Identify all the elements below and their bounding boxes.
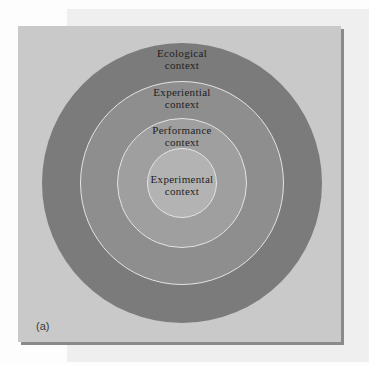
performance-context-label: Performance context	[122, 124, 242, 148]
label-line: Performance	[122, 124, 242, 136]
experimental-context-label: Experimental context	[122, 173, 242, 197]
label-line: context	[122, 185, 242, 197]
label-line: Experimental	[122, 173, 242, 185]
label-line: context	[122, 98, 242, 110]
label-line: Experiential	[122, 86, 242, 98]
ecological-context-label: Ecological context	[122, 47, 242, 71]
panel-label: (a)	[36, 320, 49, 332]
diagram-panel: Ecological context Experiential context …	[18, 26, 341, 342]
experiential-context-label: Experiential context	[122, 86, 242, 110]
label-line: context	[122, 59, 242, 71]
label-line: context	[122, 136, 242, 148]
label-line: Ecological	[122, 47, 242, 59]
